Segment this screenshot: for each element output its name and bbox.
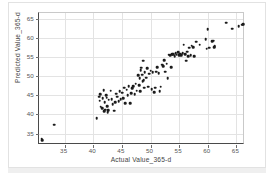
scatter-point	[208, 47, 211, 50]
scatter-point	[154, 86, 157, 89]
gridline-horizontal	[39, 134, 243, 135]
scatter-point	[185, 60, 188, 63]
y-tick	[36, 114, 39, 115]
gridline-vertical	[122, 13, 123, 143]
y-tick-label: 40	[18, 110, 34, 117]
scatter-point	[198, 43, 201, 46]
scatter-point	[142, 79, 145, 82]
gridline-vertical	[151, 13, 152, 143]
scatter-point	[139, 90, 142, 93]
gridline-vertical	[208, 13, 209, 143]
gridline-vertical	[65, 13, 66, 143]
gridline-horizontal	[39, 76, 243, 77]
scatter-point	[113, 109, 116, 112]
scatter-point	[110, 98, 113, 101]
y-tick-label: 35	[18, 129, 34, 136]
scatter-point	[104, 101, 107, 104]
gridline-horizontal	[39, 57, 243, 58]
scatter-point	[53, 123, 56, 126]
scatter-point	[225, 21, 228, 24]
scatter-point	[142, 60, 145, 63]
scatter-point	[186, 50, 189, 53]
scatter-point	[184, 53, 187, 56]
scatter-point	[122, 97, 125, 100]
scatter-point	[170, 66, 173, 69]
gridline-vertical	[179, 13, 180, 143]
scatter-point	[106, 105, 109, 108]
scatter-point	[109, 89, 112, 92]
plot-area	[38, 12, 244, 144]
scatter-point	[102, 89, 105, 92]
x-tick-label: 60	[203, 147, 210, 154]
scatter-point	[132, 85, 135, 88]
scatter-point	[98, 99, 101, 102]
scatter-point	[144, 71, 147, 74]
gridline-vertical	[236, 13, 237, 143]
y-tick	[36, 76, 39, 77]
scatter-point	[138, 84, 141, 87]
scatter-point	[116, 95, 119, 98]
scatter-point	[114, 101, 117, 104]
scatter-point	[145, 76, 148, 79]
scatter-point	[162, 65, 165, 68]
scatter-point	[148, 73, 151, 76]
y-tick	[36, 19, 39, 20]
x-tick-label: 65	[232, 147, 239, 154]
scatter-point	[140, 66, 143, 69]
scatter-point	[125, 88, 128, 91]
gridline-vertical	[93, 13, 94, 143]
gridline-horizontal	[39, 95, 243, 96]
y-axis-title: Predicted Value_365-d	[14, 0, 21, 110]
scatter-point	[204, 38, 207, 41]
x-axis-title: Actual Value_365-d	[38, 156, 244, 163]
scatter-point	[107, 109, 110, 112]
scatter-point	[124, 102, 127, 105]
x-tick-label: 45	[117, 147, 124, 154]
scatter-point	[212, 39, 215, 42]
scatter-point	[143, 86, 146, 89]
scatter-point	[136, 89, 139, 92]
y-tick	[36, 134, 39, 135]
scatter-point	[134, 82, 137, 85]
x-tick-label: 40	[89, 147, 96, 154]
scatter-point	[126, 94, 129, 97]
scatter-point	[112, 103, 115, 106]
scatter-point	[193, 55, 196, 58]
scatter-point	[156, 66, 159, 69]
chart-screenshot: 35404550556065 35404550556065 Actual Val…	[0, 0, 272, 179]
scatter-point	[147, 86, 150, 89]
scatter-point	[128, 85, 131, 88]
scatter-point	[166, 77, 169, 80]
scatter-point	[165, 63, 168, 66]
y-tick	[36, 57, 39, 58]
scatter-point	[95, 117, 98, 120]
scatter-point	[117, 100, 120, 103]
scatter-point	[163, 59, 166, 62]
x-tick-label: 35	[60, 147, 67, 154]
gridline-horizontal	[39, 19, 243, 20]
scatter-point	[207, 28, 210, 31]
scatter-point	[133, 93, 136, 96]
scatter-point	[153, 91, 156, 94]
scatter-point	[146, 67, 149, 70]
y-tick	[36, 95, 39, 96]
scatter-point	[130, 92, 133, 95]
scatter-point	[121, 91, 124, 94]
scatter-point	[101, 97, 104, 100]
scatter-point	[189, 54, 192, 57]
scatter-point	[242, 23, 245, 26]
scatter-point	[140, 69, 143, 72]
scatter-point	[99, 93, 102, 96]
scatter-point	[157, 72, 160, 75]
scatter-point	[237, 25, 240, 28]
gridline-horizontal	[39, 114, 243, 115]
y-tick	[36, 38, 39, 39]
scatter-point	[98, 95, 101, 98]
x-tick-label: 55	[175, 147, 182, 154]
scatter-point	[231, 27, 234, 30]
scatter-point	[164, 70, 167, 73]
scatter-point	[213, 45, 216, 48]
scatter-point	[141, 73, 144, 76]
scatter-point	[41, 139, 44, 142]
scatter-point	[129, 102, 132, 105]
